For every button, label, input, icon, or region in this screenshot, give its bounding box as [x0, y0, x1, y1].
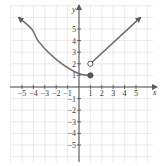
y-tick-label: −5	[67, 141, 76, 150]
x-tick-label: −3	[41, 89, 50, 98]
left-curve	[19, 17, 91, 75]
function-plot	[19, 17, 141, 78]
x-tick-label: −4	[29, 89, 38, 98]
y-tick-label: −4	[67, 129, 76, 138]
x-tick-label: 4	[123, 89, 127, 98]
x-tick-label: −2	[52, 89, 61, 98]
x-tick-label: 1	[88, 89, 92, 98]
y-tick-label: 2	[72, 60, 76, 69]
x-tick-label: 2	[100, 89, 104, 98]
piecewise-function-graph: x y −5−4−3−2−112345−5−4−3−2−112345	[0, 0, 162, 166]
y-axis-label: y	[71, 5, 76, 14]
y-tick-label: −3	[67, 118, 76, 127]
y-tick-label: 4	[72, 37, 76, 46]
y-tick-label: −2	[67, 106, 76, 115]
x-tick-label: 3	[111, 89, 115, 98]
x-axis-label: x	[152, 88, 157, 97]
y-tick-label: −1	[67, 95, 76, 104]
x-tick-label: −5	[18, 89, 27, 98]
x-tick-label: 5	[134, 89, 138, 98]
open-endpoint-circle	[88, 61, 93, 66]
y-tick-label: 3	[72, 48, 76, 57]
closed-endpoint-dot	[88, 73, 93, 78]
y-tick-label: 5	[72, 25, 76, 34]
